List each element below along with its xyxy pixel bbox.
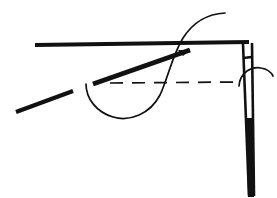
figure-canvas	[0, 0, 277, 198]
needle-eye-cap-line	[243, 57, 252, 58]
line-drawing-figure	[0, 0, 277, 198]
figure-background	[0, 0, 277, 198]
